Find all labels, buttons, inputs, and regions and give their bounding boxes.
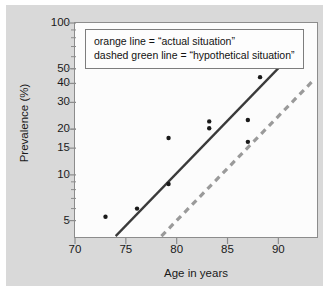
x-axis-tick-labels: 7075808590	[74, 244, 318, 260]
x-tick-label: 80	[170, 244, 183, 256]
data-point	[258, 75, 262, 79]
legend-entry-hypothetical: dashed green line = “hypothetical situat…	[94, 49, 295, 63]
legend-entry-actual: orange line = “actual situation”	[94, 35, 295, 49]
x-tick-label: 85	[221, 244, 234, 256]
data-point	[135, 206, 139, 210]
data-point	[166, 182, 170, 186]
x-tick-label: 75	[119, 244, 132, 256]
data-point	[207, 126, 211, 130]
data-point	[207, 119, 211, 123]
y-axis-title: Prevalence (%)	[18, 58, 30, 188]
y-axis-tick-labels: 5101520304050100	[26, 22, 70, 238]
trend-line-hypothetical-situation	[161, 79, 315, 236]
data-point	[166, 136, 170, 140]
data-point	[246, 118, 250, 122]
chart-screenshot: 5101520304050100 Prevalence (%) 70758085…	[0, 0, 329, 291]
x-axis-title: Age in years	[74, 267, 318, 279]
legend-box: orange line = “actual situation” dashed …	[85, 29, 304, 69]
data-point	[246, 140, 250, 144]
y-axis-ticks	[66, 22, 76, 238]
data-point	[103, 215, 107, 219]
figure-panel: 5101520304050100 Prevalence (%) 70758085…	[6, 5, 323, 286]
x-tick-label: 90	[272, 244, 285, 256]
x-tick-label: 70	[69, 244, 82, 256]
trend-line-actual-situation	[116, 66, 281, 236]
